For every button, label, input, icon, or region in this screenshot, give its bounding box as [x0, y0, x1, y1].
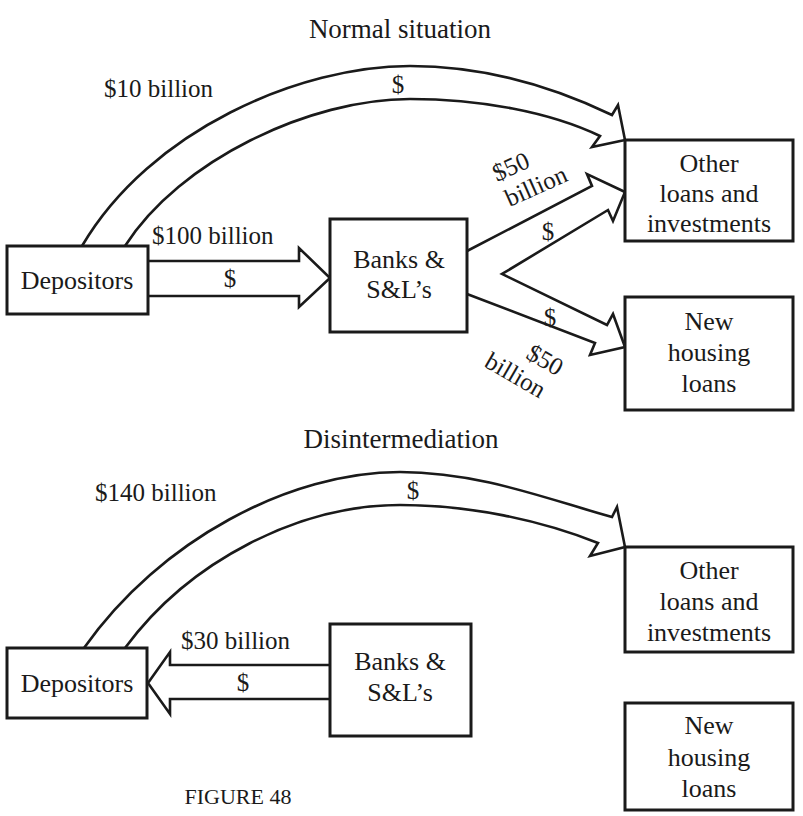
deposits-amount: $100 billion — [152, 222, 274, 249]
other-loans-label-line1: Other — [679, 556, 739, 585]
new-housing-label-line2: housing — [668, 743, 750, 772]
direct-lending-amount: $10 billion — [104, 75, 214, 102]
banks-label-line1: Banks & — [354, 647, 446, 676]
dollar-sign-label: $ — [407, 477, 420, 504]
new-housing-node: New housing loans — [625, 297, 793, 410]
dollar-sign-label: $ — [392, 71, 405, 98]
banks-label-line2: S&L’s — [367, 678, 433, 707]
dollar-sign-label: $ — [237, 669, 250, 696]
new-housing-label-line3: loans — [682, 369, 737, 398]
depositors-label: Depositors — [21, 266, 134, 295]
figure-caption: FIGURE 48 — [185, 784, 292, 809]
other-loans-label-line2: loans and — [660, 587, 759, 616]
other-loans-label-line3: investments — [647, 618, 771, 647]
depositors-label: Depositors — [21, 669, 134, 698]
normal-situation-panel: Normal situation $ $10 billion $ $100 bi… — [7, 14, 793, 410]
to-housing-amount: $50 billion — [481, 323, 569, 405]
other-loans-label-line3: investments — [647, 209, 771, 238]
disintermediation-panel: Disintermediation $ $140 billion $ $30 b… — [7, 424, 793, 810]
banks-label-line1: Banks & — [353, 245, 445, 274]
depositors-node: Depositors — [7, 246, 148, 314]
new-housing-label-line2: housing — [668, 338, 750, 367]
new-housing-label-line1: New — [684, 711, 733, 740]
withdrawals-arrow: $ — [148, 652, 330, 714]
new-housing-label-line1: New — [684, 307, 733, 336]
bank-lending-split-arrow: $ $ — [467, 174, 625, 355]
disintermediation-title: Disintermediation — [304, 424, 499, 454]
banks-label-line2: S&L’s — [366, 275, 432, 304]
dollar-sign-label: $ — [224, 265, 237, 292]
other-loans-node: Other loans and investments — [625, 547, 793, 652]
banks-node: Banks & S&L’s — [330, 219, 467, 332]
normal-situation-title: Normal situation — [309, 14, 492, 44]
withdrawals-amount: $30 billion — [181, 627, 291, 654]
flow-of-funds-diagram: Normal situation $ $10 billion $ $100 bi… — [0, 0, 803, 816]
dollar-sign-label: $ — [544, 304, 557, 331]
direct-lending-amount: $140 billion — [95, 479, 217, 506]
deposits-arrow: $ — [148, 248, 330, 307]
new-housing-node: New housing loans — [625, 703, 793, 810]
new-housing-label-line3: loans — [682, 774, 737, 803]
banks-node: Banks & S&L’s — [330, 624, 471, 736]
other-loans-label-line1: Other — [679, 149, 739, 178]
other-loans-label-line2: loans and — [660, 179, 759, 208]
to-other-amount: $50 billion — [488, 135, 571, 212]
depositors-node: Depositors — [7, 648, 147, 718]
dollar-sign-label: $ — [542, 218, 555, 245]
other-loans-node: Other loans and investments — [625, 140, 793, 241]
